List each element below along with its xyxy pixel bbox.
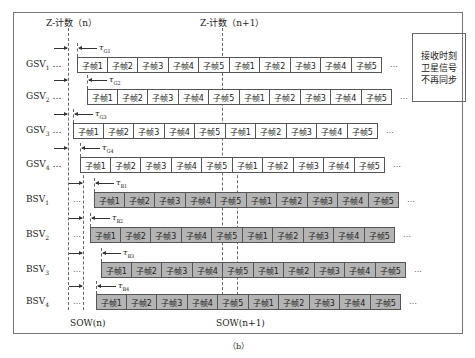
subframe-cell: 子帧2 [277, 192, 308, 208]
subframe-cell: 子帧3 [148, 89, 179, 105]
subframe-row: 子帧1子帧2子帧3子帧4子帧5子帧1子帧2子帧3子帧4子帧5 [96, 294, 401, 310]
row-start-marker [101, 248, 102, 262]
subframe-cell: 子帧2 [121, 227, 152, 243]
row-start-marker [80, 143, 81, 157]
subframe-cell: 子帧4 [193, 262, 224, 278]
zcount-n-label: Z-计数（n） [46, 16, 97, 29]
subframe-cell: 子帧2 [270, 89, 301, 105]
subframe-cell: 子帧5 [371, 294, 402, 310]
row-label-bsv2: BSV2 [26, 229, 49, 241]
offset-arrow-left-icon [103, 253, 121, 254]
sow-n-label: SOW(n) [70, 318, 106, 328]
leading-ellipsis: … [73, 297, 81, 306]
subframe-cell: 子帧5 [212, 227, 243, 243]
offset-arrow-left-icon [82, 148, 100, 149]
offset-arrow-right-icon [69, 253, 82, 254]
subframe-cell: 子帧3 [138, 57, 169, 73]
row-label-bsv3: BSV3 [26, 264, 49, 276]
subframe-cell: 子帧5 [365, 227, 396, 243]
subframe-cell: 子帧3 [315, 262, 346, 278]
subframe-cell: 子帧1 [240, 89, 271, 105]
subframe-row: 子帧1子帧2子帧3子帧4子帧5子帧1子帧2子帧3子帧4子帧5 [77, 57, 382, 73]
zcount-n1-label: Z-计数（n+1） [200, 16, 264, 29]
subframe-cell: 子帧4 [340, 294, 371, 310]
subframe-cell: 子帧1 [90, 227, 121, 243]
offset-arrow-right-icon [69, 286, 82, 287]
subframe-cell: 子帧3 [294, 157, 325, 173]
subframe-cell: 子帧5 [352, 57, 383, 73]
row-label-text: BSV [26, 194, 45, 204]
subframe-cell: 子帧4 [334, 227, 365, 243]
sow-n1-label: SOW(n+1) [216, 318, 265, 328]
row-label-gsv4: GSV4 … [26, 159, 62, 171]
trailing-ellipsis: … [393, 160, 401, 169]
leading-ellipsis: … [73, 265, 81, 274]
subframe-cell: 子帧3 [308, 192, 339, 208]
subframe-cell: 子帧5 [355, 157, 386, 173]
subframe-cell: 子帧4 [169, 57, 200, 73]
figure-caption: （b） [228, 340, 249, 351]
tau-subscript: B1 [120, 183, 127, 189]
subframe-cell: 子帧1 [101, 262, 132, 278]
subframe-cell: 子帧3 [287, 123, 318, 139]
subframe-cell: 子帧5 [362, 89, 393, 105]
subframe-cell: 子帧4 [331, 89, 362, 105]
subframe-cell: 子帧4 [172, 157, 203, 173]
tau-subscript: B3 [127, 253, 134, 259]
offset-arrow-right-icon [69, 183, 82, 184]
leading-ellipsis: … [50, 159, 62, 169]
tau-label: τB2 [112, 213, 123, 224]
row-start-marker [73, 109, 74, 123]
row-start-marker [77, 43, 78, 57]
subframe-cell: 子帧3 [310, 294, 341, 310]
tau-label: τB4 [118, 281, 129, 292]
subframe-cell: 子帧4 [324, 157, 355, 173]
leading-ellipsis: … [73, 195, 81, 204]
tau-label: τB3 [123, 248, 134, 259]
leading-ellipsis: … [50, 91, 62, 101]
offset-arrow-left-icon [75, 114, 93, 115]
subframe-cell: 子帧2 [104, 123, 135, 139]
subframe-cell: 子帧2 [125, 192, 156, 208]
subframe-cell: 子帧2 [118, 89, 149, 105]
subframe-cell: 子帧4 [179, 89, 210, 105]
subframe-cell: 子帧3 [155, 192, 186, 208]
subframe-cell: 子帧4 [317, 123, 348, 139]
row-start-marker [94, 178, 95, 192]
subframe-row: 子帧1子帧2子帧3子帧4子帧5子帧1子帧2子帧3子帧4子帧5 [87, 89, 392, 105]
subframe-cell: 子帧3 [291, 57, 322, 73]
subframe-cell: 子帧5 [218, 294, 249, 310]
subframe-cell: 子帧3 [157, 294, 188, 310]
row-label-text: GSV [26, 59, 46, 69]
row-label-text: GSV [26, 159, 46, 169]
trailing-ellipsis: … [386, 126, 394, 135]
trailing-ellipsis: … [400, 92, 408, 101]
tau-subscript: G3 [99, 114, 106, 120]
subframe-cell: 子帧2 [260, 57, 291, 73]
subframe-cell: 子帧1 [77, 57, 108, 73]
subframe-row: 子帧1子帧2子帧3子帧4子帧5子帧1子帧2子帧3子帧4子帧5 [94, 192, 399, 208]
row-label-gsv3: GSV3 … [26, 125, 62, 137]
offset-arrow-right-icon [54, 148, 67, 149]
trailing-ellipsis: … [390, 60, 398, 69]
trailing-ellipsis: … [409, 297, 417, 306]
offset-arrow-right-icon [54, 114, 67, 115]
tau-label: τG1 [99, 43, 111, 54]
subframe-cell: 子帧2 [256, 123, 287, 139]
row-start-marker [96, 281, 97, 294]
tau-subscript: G4 [106, 148, 113, 154]
subframe-cell: 子帧5 [209, 89, 240, 105]
tau-label: τG3 [95, 109, 107, 120]
note-line-3: 不再同步 [421, 74, 457, 86]
tau-subscript: G2 [113, 80, 120, 86]
offset-arrow-right-icon [54, 80, 67, 81]
row-start-marker [87, 75, 88, 89]
subframe-cell: 子帧2 [132, 262, 163, 278]
subframe-cell: 子帧5 [199, 57, 230, 73]
subframe-cell: 子帧5 [376, 262, 407, 278]
subframe-cell: 子帧3 [304, 227, 335, 243]
row-label-text: GSV [26, 91, 46, 101]
subframe-row: 子帧1子帧2子帧3子帧4子帧5子帧1子帧2子帧3子帧4子帧5 [101, 262, 406, 278]
row-label-sub: 2 [45, 234, 49, 241]
trailing-ellipsis: … [403, 230, 411, 239]
